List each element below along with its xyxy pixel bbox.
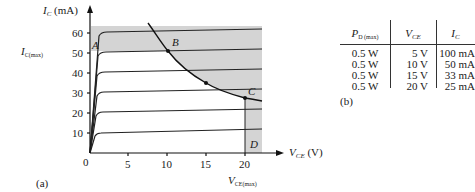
collector-characteristics-chart: IC (mA) IC(max) VCE (V) VCE(max) 60 50 4… [0, 0, 330, 192]
point-c-label: C [248, 86, 255, 97]
vce-max-label-main: V [228, 174, 235, 186]
x-axis-label-main: V [289, 146, 296, 158]
point-d-label: D [250, 139, 258, 150]
cell-ic: 25 mA [436, 81, 475, 92]
point-c-dot [243, 96, 247, 100]
x-tick-20: 20 [239, 159, 250, 170]
power-table: PD (max) VCE IC 0.5 W 5 V 100 mA 0.5 W 1… [340, 27, 475, 92]
header-pd-sub: D (max) [358, 34, 378, 40]
y-tick-60: 60 [72, 28, 83, 39]
table-row: 0.5 W 20 V 25 mA [340, 81, 475, 92]
ic-max-label: IC(max) [21, 46, 43, 58]
x-tick-15: 15 [200, 159, 211, 170]
x-axis-label: VCE (V) [289, 147, 323, 160]
y-axis-label-unit: (mA) [51, 4, 78, 16]
header-ic: IC [436, 28, 475, 43]
vce-max-label: VCE(max) [228, 175, 257, 187]
y-tick-30: 30 [72, 88, 83, 99]
caption-a: (a) [36, 177, 48, 189]
y-tick-50: 50 [72, 48, 83, 59]
table-header: PD (max) VCE IC [340, 27, 475, 45]
y-tick-20: 20 [72, 108, 83, 119]
header-vce: VCE [390, 28, 436, 43]
x-axis-arrow-icon [276, 150, 284, 156]
header-ic-sub: C [455, 33, 460, 41]
x-tick-5: 5 [125, 159, 131, 170]
y-tick-40: 40 [72, 68, 83, 79]
y-axis-arrow-icon [87, 5, 93, 13]
cell-pd: 0.5 W [340, 81, 390, 92]
point-b-label: B [172, 37, 179, 48]
y-axis-label: IC (mA) [43, 5, 78, 18]
vce-max-label-sub: CE(max) [235, 181, 257, 187]
header-vce-sub: CE [412, 33, 421, 41]
table-divider [390, 20, 391, 88]
header-vce-main: V [405, 27, 412, 39]
origin-label: 0 [83, 157, 89, 168]
cell-vce: 20 V [390, 81, 436, 92]
point-a-label: A [92, 40, 99, 51]
point-b-dot [166, 49, 170, 53]
table-divider [436, 20, 437, 88]
ic-max-label-sub: C(max) [25, 52, 43, 58]
y-tick-10: 10 [72, 128, 83, 139]
x-tick-10: 10 [161, 159, 172, 170]
x-axis-label-sub: CE [296, 152, 305, 160]
caption-b: (b) [340, 95, 353, 107]
x-axis-label-unit: (V) [305, 146, 323, 158]
header-pd-max: PD (max) [340, 28, 390, 43]
point-mid-dot [204, 81, 208, 85]
